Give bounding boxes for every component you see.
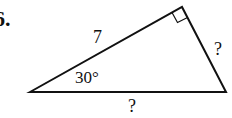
side-label-unknown: ? <box>214 40 222 58</box>
hypotenuse-label: ? <box>128 97 136 115</box>
side-label-7: 7 <box>93 28 102 46</box>
right-triangle <box>0 0 232 118</box>
problem-number: 6. <box>0 8 11 30</box>
angle-label: 30° <box>75 69 99 86</box>
